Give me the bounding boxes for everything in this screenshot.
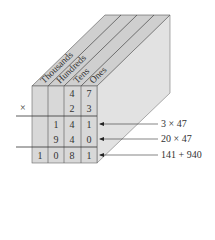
- digit-cell: 4: [64, 132, 80, 147]
- digit-cell: 7: [81, 86, 97, 101]
- digit-cell: [32, 132, 48, 147]
- digit-cell: 4: [64, 86, 80, 101]
- digit-cell: [48, 101, 64, 116]
- digit-cell: [32, 101, 48, 116]
- digit-cell: 1: [81, 148, 97, 163]
- digit-cell: 9: [48, 132, 64, 147]
- multiply-operator: ×: [20, 102, 26, 114]
- digit-cell: 1: [81, 117, 97, 132]
- annotation-sum: 141 + 940: [161, 149, 202, 161]
- digit-cell: [32, 86, 48, 101]
- digit-cell: 1: [48, 117, 64, 132]
- digit-cell: 3: [81, 101, 97, 116]
- digit-cell: [48, 86, 64, 101]
- annotation-partial-product-1: 3 × 47: [161, 118, 187, 130]
- digit-cell: 2: [64, 101, 80, 116]
- digit-cell: 0: [48, 148, 64, 163]
- digit-cell: [32, 117, 48, 132]
- digit-cell: 1: [32, 148, 48, 163]
- digit-cell: 0: [81, 132, 97, 147]
- annotation-partial-product-2: 20 × 47: [161, 133, 192, 145]
- digit-cell: 4: [64, 117, 80, 132]
- digit-cell: 8: [64, 148, 80, 163]
